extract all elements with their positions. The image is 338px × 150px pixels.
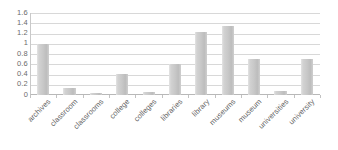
bar-slot [294, 13, 320, 95]
bar [63, 88, 75, 95]
y-tick-label: 0.2 [2, 80, 28, 88]
x-tick-mark [188, 95, 189, 98]
bar-slot [30, 13, 56, 95]
bar-slot [135, 13, 161, 95]
bar [195, 32, 207, 95]
bar-slot [162, 13, 188, 95]
x-tick-mark [135, 95, 136, 98]
bar-slot [267, 13, 293, 95]
y-tick-label: 0.4 [2, 70, 28, 78]
bar-slot [83, 13, 109, 95]
x-tick-mark [241, 95, 242, 98]
x-tick-mark [83, 95, 84, 98]
bar [248, 59, 260, 95]
x-tick-mark [30, 95, 31, 98]
y-tick-label: 1 [2, 39, 28, 47]
bar [274, 91, 286, 95]
bar-slot [241, 13, 267, 95]
bar [116, 74, 128, 95]
bar [222, 26, 234, 95]
bar-slot [215, 13, 241, 95]
x-tick-mark [267, 95, 268, 98]
bar-slot [188, 13, 214, 95]
x-axis-tick-labels: archivesclassroomclassroomscollegecolleg… [30, 97, 320, 150]
bar-slot [109, 13, 135, 95]
y-tick-label: 1.2 [2, 29, 28, 37]
bar [90, 93, 102, 95]
x-tick-mark [162, 95, 163, 98]
bar [37, 44, 49, 95]
y-tick-label: 0 [2, 91, 28, 99]
bars-layer [30, 13, 320, 95]
y-tick-label: 1.6 [2, 9, 28, 17]
bar-chart-figure: 1.61.41.210.80.60.40.20 archivesclassroo… [0, 0, 338, 150]
x-tick-mark [109, 95, 110, 98]
bar [143, 92, 155, 95]
x-tick-mark [215, 95, 216, 98]
y-tick-label: 0.8 [2, 50, 28, 58]
y-tick-label: 0.6 [2, 60, 28, 68]
y-tick-label: 1.4 [2, 19, 28, 27]
bar [301, 59, 313, 95]
bar [169, 64, 181, 95]
x-tick-mark [56, 95, 57, 98]
x-tick-mark [320, 95, 321, 98]
bar-slot [56, 13, 82, 95]
x-tick-mark [294, 95, 295, 98]
